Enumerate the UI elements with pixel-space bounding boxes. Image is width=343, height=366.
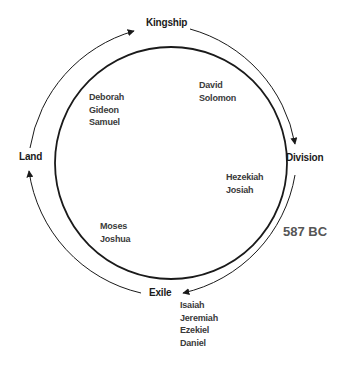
figures-kings: David Solomon [199, 79, 236, 104]
figure-name: Solomon [199, 92, 236, 105]
figure-name: Josiah [226, 184, 263, 197]
inner-circle [55, 47, 287, 279]
figure-name: Deborah [89, 91, 124, 104]
figure-name: Jeremiah [180, 312, 218, 325]
stage-kingship: Kingship [146, 17, 187, 28]
figure-name: David [199, 79, 236, 92]
figures-reformers: Hezekiah Josiah [226, 171, 263, 196]
figures-founders: Moses Joshua [100, 220, 130, 245]
figure-name: Hezekiah [226, 171, 263, 184]
stage-division: Division [286, 152, 323, 163]
figure-name: Samuel [89, 116, 124, 129]
figure-name: Daniel [180, 337, 218, 350]
cycle-diagram [0, 0, 343, 366]
stage-land: Land [19, 151, 42, 162]
figure-name: Gideon [89, 104, 124, 117]
figures-judges: Deborah Gideon Samuel [89, 91, 124, 129]
stage-exile: Exile [149, 287, 171, 298]
figures-prophets: Isaiah Jeremiah Ezekiel Daniel [180, 299, 218, 349]
figure-name: Ezekiel [180, 324, 218, 337]
figure-name: Joshua [100, 233, 130, 246]
date-annotation: 587 BC [283, 224, 327, 239]
figure-name: Moses [100, 220, 130, 233]
figure-name: Isaiah [180, 299, 218, 312]
